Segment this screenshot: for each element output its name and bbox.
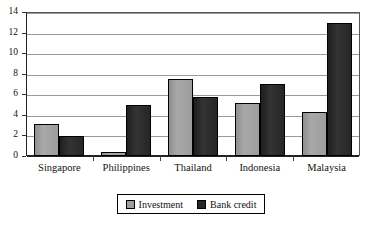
category-separator-tick [160, 156, 161, 161]
bank-credit-swatch [197, 200, 206, 209]
bar [126, 105, 151, 156]
bar-chart: 02468101214 SingaporePhilippinesThailand… [0, 0, 381, 228]
legend-entry: Bank credit [197, 199, 256, 210]
y-tick-label: 4 [0, 110, 18, 120]
bar [302, 112, 327, 156]
category-label: Thailand [160, 161, 227, 174]
y-tick-label: 2 [0, 130, 18, 140]
bar [235, 103, 260, 156]
legend-label: Bank credit [210, 199, 256, 210]
bars-layer [26, 12, 360, 156]
category-separator-tick [93, 156, 94, 161]
bar [193, 97, 218, 156]
category-separator-tick [226, 156, 227, 161]
y-tick-label: 14 [0, 7, 18, 17]
category-label: Philippines [93, 161, 160, 174]
legend-label: Investment [139, 199, 183, 210]
bar [260, 84, 285, 156]
category-label: Malaysia [293, 161, 360, 174]
bar [168, 79, 193, 156]
y-tick-label: 10 [0, 48, 18, 58]
category-label: Indonesia [226, 161, 293, 174]
chart-legend: InvestmentBank credit [117, 194, 265, 214]
chart-title [0, 0, 381, 2]
investment-swatch [126, 200, 135, 209]
bar [34, 124, 59, 156]
y-tick-mark [22, 156, 26, 157]
category-label: Singapore [26, 161, 93, 174]
y-tick-label: 12 [0, 28, 18, 38]
bar [59, 136, 84, 156]
y-tick-label: 6 [0, 89, 18, 99]
legend-entry: Investment [126, 199, 183, 210]
bar [327, 23, 352, 156]
y-tick-label: 8 [0, 69, 18, 79]
category-separator-tick [293, 156, 294, 161]
bar [101, 152, 126, 156]
y-tick-label: 0 [0, 151, 18, 161]
x-axis-category-labels: SingaporePhilippinesThailandIndonesiaMal… [26, 161, 360, 177]
